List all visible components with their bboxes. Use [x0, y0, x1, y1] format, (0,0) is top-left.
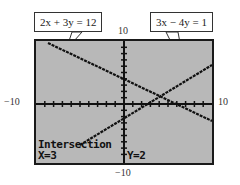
line-2x-3y-12: [48, 43, 212, 121]
x-min-label: −10: [4, 96, 20, 107]
x-readout: X=3: [38, 150, 56, 161]
y-readout: Y=2: [127, 150, 145, 161]
x-max-label: 10: [218, 96, 228, 107]
y-min-label: −10: [115, 167, 131, 178]
calculator-screen: Intersection X=3 Y=2: [34, 39, 214, 165]
y-max-label: 10: [118, 25, 128, 36]
